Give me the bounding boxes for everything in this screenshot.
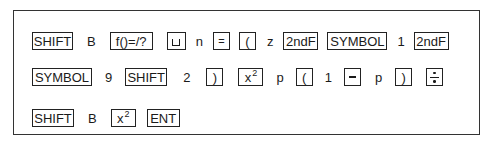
digit-2: 2 xyxy=(183,71,190,84)
divide-icon xyxy=(430,71,439,84)
x-squared-base: x xyxy=(117,112,124,125)
letter-z: z xyxy=(267,35,274,48)
minus-key[interactable] xyxy=(344,68,361,86)
space-icon xyxy=(172,39,180,46)
x-squared-exponent: 2 xyxy=(252,69,257,78)
digit-1: 1 xyxy=(325,71,332,84)
2ndf-key[interactable]: 2ndF xyxy=(414,32,449,50)
letter-b: B xyxy=(88,112,97,125)
x-squared-key[interactable]: x2 xyxy=(111,109,136,127)
letter-p: p xyxy=(276,71,283,84)
close-paren-key[interactable]: ) xyxy=(395,68,412,86)
equals-key[interactable]: = xyxy=(213,32,230,50)
digit-1: 1 xyxy=(397,35,404,48)
ent-key[interactable]: ENT xyxy=(147,109,180,127)
keystroke-row-2: SYMBOL 9 SHIFT 2 ) x2 p ( 1 p ) xyxy=(32,66,443,88)
symbol-key[interactable]: SYMBOL xyxy=(32,68,92,86)
open-paren-key[interactable]: ( xyxy=(239,32,256,50)
keystroke-row-3: SHIFT B x2 ENT xyxy=(32,107,180,129)
function-key[interactable]: f()=/? xyxy=(110,32,153,50)
open-paren-key[interactable]: ( xyxy=(296,68,313,86)
divide-key[interactable] xyxy=(426,68,443,86)
shift-key[interactable]: SHIFT xyxy=(125,68,167,86)
minus-icon xyxy=(349,76,356,77)
close-paren-key[interactable]: ) xyxy=(206,68,223,86)
keystroke-row-1: SHIFT B f()=/? n = ( z 2ndF SYMBOL 1 2nd… xyxy=(32,30,449,52)
shift-key[interactable]: SHIFT xyxy=(32,32,73,50)
letter-n: n xyxy=(196,35,203,48)
x-squared-key[interactable]: x2 xyxy=(238,68,263,86)
digit-9: 9 xyxy=(105,71,112,84)
symbol-key[interactable]: SYMBOL xyxy=(327,32,387,50)
letter-b: B xyxy=(87,35,96,48)
letter-p: p xyxy=(375,71,382,84)
equals-icon: = xyxy=(218,36,224,47)
2ndf-key[interactable]: 2ndF xyxy=(283,32,318,50)
x-squared-exponent: 2 xyxy=(124,110,129,119)
shift-key[interactable]: SHIFT xyxy=(32,109,74,127)
space-key[interactable] xyxy=(167,32,186,50)
x-squared-base: x xyxy=(245,71,252,84)
